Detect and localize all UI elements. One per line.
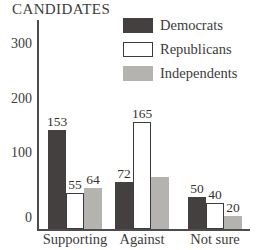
legend-label-republicans: Republicans [160,41,232,58]
bar-chart: CANDIDATES 0100200300 153556472165504020… [0,0,256,250]
bar-independents-supporting [84,188,102,229]
legend-swatch-democrats [123,18,153,33]
legend-label-independents: Independents [160,65,237,82]
legend-label-democrats: Democrats [160,17,223,34]
legend-swatch-independents [123,66,153,81]
y-tick-label-100: 100 [0,144,32,162]
x-category-label-against: Against [102,231,182,248]
y-tick-label-300: 300 [0,35,32,53]
bar-value-republicans-against: 165 [122,106,162,122]
y-tick-label-200: 200 [0,90,32,108]
bar-independents-against [151,177,169,229]
legend-swatch-republicans [123,42,153,57]
bar-independents-not-sure [224,216,242,229]
bar-value-democrats-supporting: 153 [37,114,77,130]
bar-republicans-supporting [66,193,84,229]
bar-republicans-against [133,122,151,229]
y-tick-label-0: 0 [0,209,32,227]
bar-democrats-against [115,182,133,229]
x-category-label-not-sure: Not sure [175,231,255,248]
chart-title: CANDIDATES [12,1,110,18]
bar-value-independents-not-sure: 20 [213,200,253,216]
